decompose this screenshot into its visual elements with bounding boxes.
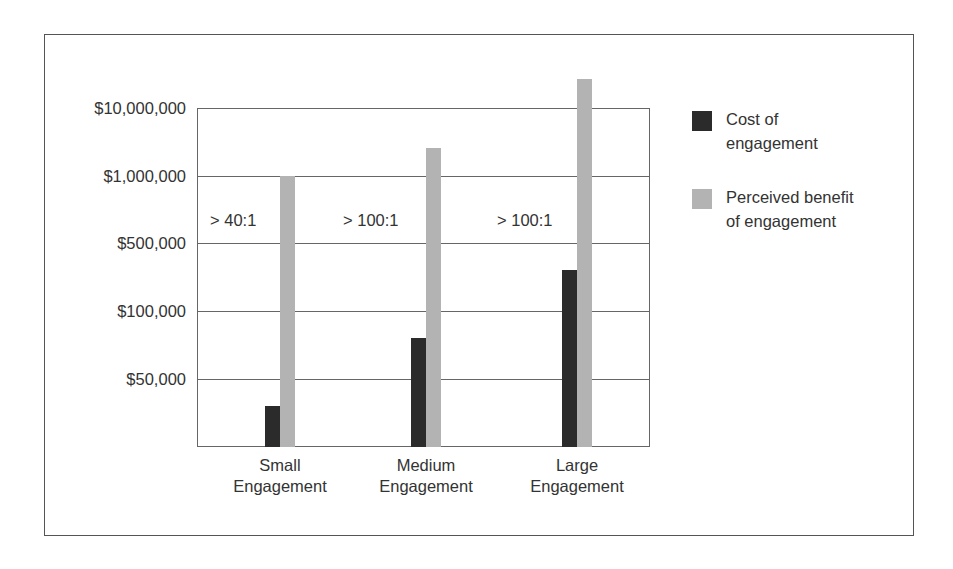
bar-cost-small bbox=[265, 406, 280, 447]
legend-label-cost: Cost of engagement bbox=[726, 107, 896, 155]
y-tick-label: $10,000,000 bbox=[94, 99, 186, 118]
x-label-medium: Medium Engagement bbox=[361, 455, 491, 497]
bar-cost-large bbox=[562, 270, 577, 447]
x-label-line2: Engagement bbox=[512, 476, 642, 497]
x-label-line1: Small bbox=[215, 455, 345, 476]
x-label-line1: Medium bbox=[361, 455, 491, 476]
x-label-line2: Engagement bbox=[215, 476, 345, 497]
x-label-line1: Large bbox=[512, 455, 642, 476]
legend-label-benefit: Perceived benefit of engagement bbox=[726, 185, 896, 233]
ratio-annotation-medium: > 100:1 bbox=[343, 211, 399, 230]
bar-benefit-large bbox=[577, 79, 592, 447]
legend-item-benefit: Perceived benefit of engagement bbox=[692, 185, 896, 233]
bar-cost-medium bbox=[411, 338, 426, 447]
bar-benefit-medium bbox=[426, 148, 441, 447]
y-tick-label: $500,000 bbox=[117, 234, 186, 253]
y-tick-label: $50,000 bbox=[126, 370, 186, 389]
bar-benefit-small bbox=[280, 176, 295, 447]
ratio-annotation-small: > 40:1 bbox=[210, 211, 256, 230]
legend-swatch-cost bbox=[692, 111, 712, 131]
legend-swatch-benefit bbox=[692, 189, 712, 209]
y-tick-label: $1,000,000 bbox=[103, 167, 186, 186]
x-label-line2: Engagement bbox=[361, 476, 491, 497]
x-label-large: Large Engagement bbox=[512, 455, 642, 497]
ratio-annotation-large: > 100:1 bbox=[497, 211, 553, 230]
legend-item-cost: Cost of engagement bbox=[692, 107, 896, 155]
y-tick-label: $100,000 bbox=[117, 302, 186, 321]
x-label-small: Small Engagement bbox=[215, 455, 345, 497]
